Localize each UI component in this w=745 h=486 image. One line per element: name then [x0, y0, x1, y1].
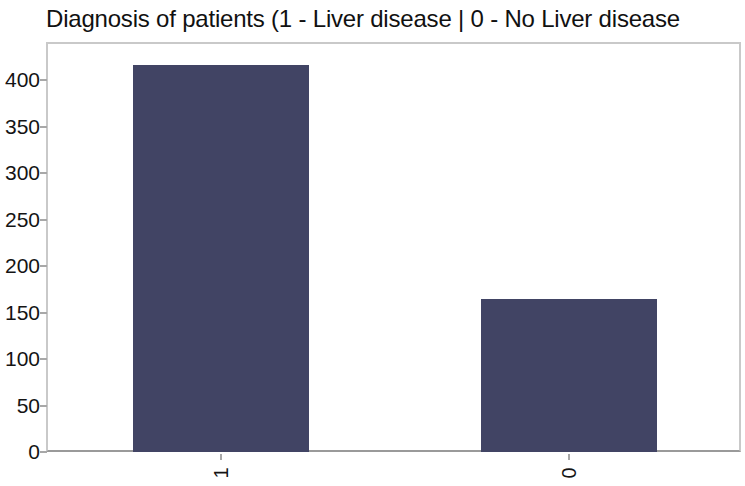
x-tick-label: 1	[210, 461, 232, 485]
bar-1	[133, 65, 309, 452]
x-tick-mark	[568, 454, 570, 460]
bar-0	[481, 299, 657, 452]
x-tick-mark	[220, 454, 222, 460]
x-tick-label: 0	[558, 461, 580, 485]
x-axis: 10	[0, 454, 735, 486]
